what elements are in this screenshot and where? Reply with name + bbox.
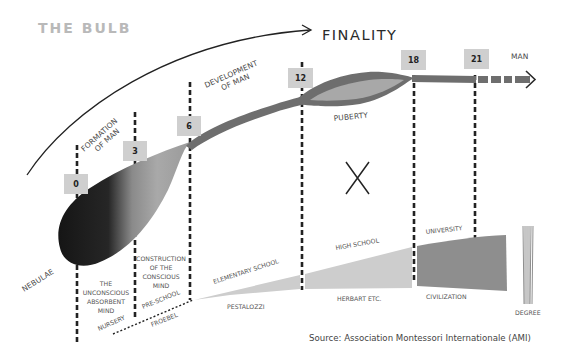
man-label: MAN <box>511 52 529 61</box>
svg-text:THE: THE <box>99 280 112 287</box>
age-box-18: 18 <box>401 50 426 70</box>
degree-label: DEGREE <box>515 309 541 316</box>
svg-text:12: 12 <box>295 74 306 83</box>
bulb-diagram: THE BULB FINALITY MAN 0 3 6 12 18 <box>0 0 563 357</box>
diagram-title: THE BULB <box>38 20 131 36</box>
pestalozzi-label: PESTALOZZI <box>227 303 265 310</box>
age-box-6: 6 <box>177 116 201 136</box>
civilization-label: CIVILIZATION <box>426 293 467 300</box>
svg-text:3: 3 <box>132 147 138 156</box>
school-wedge <box>194 275 300 300</box>
nebulae-label: NEBULAE <box>20 267 55 294</box>
man-dash-1 <box>478 76 488 83</box>
man-dash-3 <box>504 76 512 83</box>
formation-of-man-label: FORMATION OF MAN <box>79 116 125 160</box>
age-box-3: 3 <box>123 141 147 161</box>
degree-icon <box>523 226 533 304</box>
development-band <box>186 96 306 150</box>
svg-text:18: 18 <box>408 56 420 65</box>
university-block <box>417 235 507 291</box>
source-caption: Source: Association Montessori Internati… <box>309 333 531 343</box>
pre-school-label: PRE-SCHOOL <box>141 288 181 310</box>
froebel-label: FROEBEL <box>150 311 179 328</box>
svg-text:MIND: MIND <box>153 282 170 289</box>
x-mark <box>346 162 369 194</box>
conscious-mind-label: CONSTRUCTION OF THE CONSCIOUS MIND <box>136 255 186 289</box>
svg-text:6: 6 <box>186 122 192 131</box>
svg-text:CONSTRUCTION: CONSTRUCTION <box>136 255 186 262</box>
svg-text:UNCONSCIOUS: UNCONSCIOUS <box>83 289 129 296</box>
man-dash-2 <box>491 76 501 83</box>
finality-label: FINALITY <box>322 27 397 43</box>
elementary-school-label: ELEMENTARY SCHOOL <box>212 257 280 285</box>
development-of-man-label: DEVELOPMENT OF MAN <box>203 58 263 98</box>
svg-text:OF THE: OF THE <box>150 264 173 271</box>
herbart-label: HERBART ETC. <box>337 295 382 302</box>
puberty-label: PUBERTY <box>333 110 368 123</box>
unconscious-mind-label: THE UNCONSCIOUS ABSORBENT MIND <box>83 280 129 314</box>
age-box-21: 21 <box>464 49 489 69</box>
highschool-block <box>305 247 412 289</box>
svg-text:CONSCIOUS: CONSCIOUS <box>142 273 179 280</box>
high-school-label: HIGH SCHOOL <box>335 236 380 251</box>
svg-text:21: 21 <box>471 55 483 64</box>
svg-text:ABSORBENT: ABSORBENT <box>87 298 125 305</box>
svg-text:MIND: MIND <box>98 307 115 314</box>
age-box-0: 0 <box>64 174 88 194</box>
nursery-label: NURSERY <box>97 314 127 332</box>
svg-text:0: 0 <box>73 180 79 189</box>
man-dash-4 <box>515 76 530 83</box>
adult-band <box>412 75 476 83</box>
age-box-12: 12 <box>288 68 313 88</box>
university-label: UNIVERSITY <box>425 224 462 235</box>
